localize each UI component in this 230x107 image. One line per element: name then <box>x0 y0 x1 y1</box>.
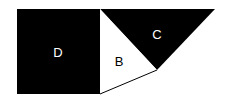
geometry-diagram: D B C <box>0 0 230 107</box>
label-c: C <box>152 27 161 42</box>
label-d: D <box>53 45 62 60</box>
label-b: B <box>115 54 124 69</box>
